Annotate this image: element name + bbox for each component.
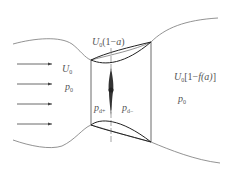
label-disk-velocity: U0(1−a) [92,37,125,48]
label-upstream-velocity: U0 [62,64,72,75]
diagram-graphics [0,0,231,175]
actuator-disk-diagram: U0 p0 U0(1−a) pd+ pd− U0[1−f(a)] p0 [0,0,231,175]
label-upstream-pressure: p0 [65,82,73,93]
lower-inner-curve-2 [91,121,151,142]
rotor-hub-icon [109,88,114,93]
label-wake-pressure: p0 [178,94,186,105]
label-pressure-front: pd+ [94,103,105,114]
lower-streamline [13,125,220,163]
label-pressure-back: pd− [122,103,133,114]
label-wake-velocity: U0[1−f(a)] [174,72,216,83]
lower-inner-curve [91,125,151,142]
